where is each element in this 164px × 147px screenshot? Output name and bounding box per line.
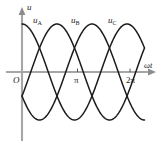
x-tick-label-2pi: 2π — [126, 76, 135, 85]
curve-label-ua: uA — [33, 16, 42, 26]
y-axis-label: u — [27, 3, 32, 12]
curve-label-ub: uB — [71, 16, 80, 26]
curve-label-uc-sub: C — [113, 20, 117, 26]
curve-label-uc: uC — [108, 16, 117, 26]
curve-label-ua-sub: A — [38, 20, 42, 26]
x-tick-label-pi: π — [74, 76, 79, 85]
waveform-plot — [0, 0, 164, 147]
three-phase-waveform-figure: u uA uB uC ωt O π 2π — [0, 0, 164, 147]
x-axis-label: ωt — [144, 61, 152, 70]
origin-label: O — [13, 76, 20, 85]
y-axis-arrowhead — [19, 7, 26, 15]
curve-label-ub-sub: B — [76, 20, 80, 26]
